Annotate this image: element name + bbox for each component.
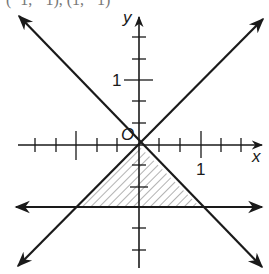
- y-tick-label-1: 1: [112, 71, 121, 90]
- origin-label: O: [121, 125, 134, 144]
- x-tick-label-1: 1: [196, 160, 205, 179]
- x-axis-label: x: [251, 147, 261, 166]
- shaded-region: [70, 140, 210, 210]
- coordinate-plane: y x O 1 1: [0, 0, 269, 274]
- y-axis-label: y: [122, 8, 133, 27]
